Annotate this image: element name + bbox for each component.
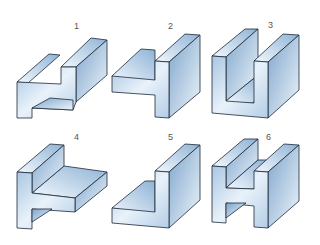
shape-label-5: 5 xyxy=(168,132,173,142)
shape-label-1: 1 xyxy=(74,21,79,31)
shape-label-6: 6 xyxy=(266,132,271,142)
shape-2: 2 xyxy=(112,21,200,118)
shape-label-3: 3 xyxy=(268,20,273,30)
shape-3: 3 xyxy=(212,20,299,118)
shape-4: 4 xyxy=(17,132,107,229)
shape-1: 1 xyxy=(17,21,107,118)
isometric-shapes-figure: 1 2 3 4 5 xyxy=(0,0,320,245)
shape-1-lower-top xyxy=(17,54,60,83)
shape-5: 5 xyxy=(112,132,200,228)
shape-6: 6 xyxy=(212,132,299,228)
shape-label-2: 2 xyxy=(168,21,173,31)
shape-6-under xyxy=(226,203,246,218)
shape-4-under xyxy=(32,209,52,222)
shape-label-4: 4 xyxy=(74,132,79,142)
